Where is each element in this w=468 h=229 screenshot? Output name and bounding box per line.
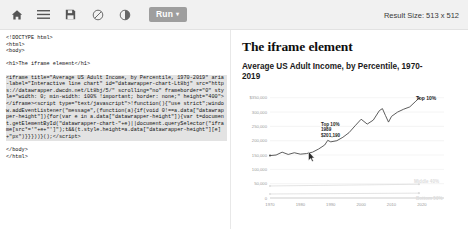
code-line-blank [6,141,227,148]
code-editor-pane[interactable]: <!DOCTYPE html><html><body><h1>The ifram… [0,30,230,229]
svg-text:2010: 2010 [387,202,397,207]
code-editor-content[interactable]: <!DOCTYPE html><html><body><h1>The ifram… [6,35,227,160]
series-label-bottom50: Bottom 50% [416,196,443,201]
svg-text:1970: 1970 [265,202,275,207]
code-line-selected: <iframe title="Average US Adult Income, … [6,75,227,141]
chevron-down-icon: ▾ [176,7,179,22]
contrast-icon[interactable] [116,6,133,23]
editor-toolbar: Run ▾ Result Size: 513 x 512 [0,0,468,30]
toolbar-icon-group: Run ▾ [8,6,187,23]
code-line: <body> [6,48,227,55]
chart-tooltip: Top 10% 1989 $201,190 [321,122,340,138]
svg-text:100,000: 100,000 [252,167,268,172]
svg-text:1980: 1980 [296,202,306,207]
no-entry-icon[interactable] [89,6,106,23]
code-line: <html> [6,42,227,49]
code-line: <h1>The iframe element</h1> [6,61,227,68]
run-button[interactable]: Run ▾ [149,7,187,22]
chart-title: Average US Adult Income, by Percentile, … [242,62,432,82]
code-line: </body> [6,147,227,154]
code-line: </html> [6,154,227,161]
home-icon[interactable] [8,6,25,23]
svg-text:200,000: 200,000 [252,138,268,143]
code-line-blank [6,68,227,75]
code-line: <!DOCTYPE html> [6,35,227,42]
svg-text:250,000: 250,000 [252,124,268,129]
svg-text:50,000: 50,000 [254,181,267,186]
svg-text:150,000: 150,000 [252,153,268,158]
menu-icon[interactable] [35,6,52,23]
svg-text:300,000: 300,000 [252,110,268,115]
code-line-blank [6,55,227,62]
series-label-middle40: Middle 40% [414,179,439,184]
svg-text:1990: 1990 [326,202,336,207]
code-playground-window: Run ▾ Result Size: 513 x 512 <!DOCTYPE h… [0,0,468,229]
result-preview-pane: The iframe element Average US Adult Inco… [234,30,468,229]
result-size-label: Result Size: 513 x 512 [384,10,459,19]
svg-text:0: 0 [265,196,268,201]
series-label-top10: Top 10% [416,96,436,101]
split-panes: <!DOCTYPE html><html><body><h1>The ifram… [0,30,468,229]
svg-text:2020: 2020 [417,202,427,207]
run-button-label: Run [156,7,173,22]
line-chart-svg: $350,000300,000250,000200,000150,000100,… [242,86,458,214]
page-title: The iframe element [242,39,460,55]
tooltip-value: $201,190 [321,133,340,138]
save-icon[interactable] [62,6,79,23]
svg-text:$350,000: $350,000 [250,95,268,100]
datawrapper-chart[interactable]: $350,000300,000250,000200,000150,000100,… [242,86,458,214]
svg-text:2000: 2000 [356,202,366,207]
